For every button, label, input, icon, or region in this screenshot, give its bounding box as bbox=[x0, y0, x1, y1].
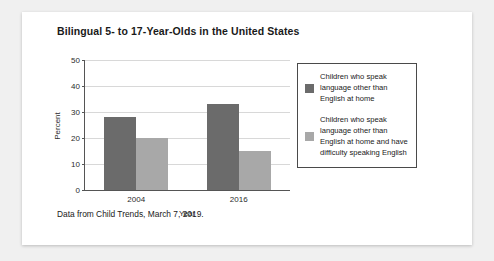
chart-screenshot: Bilingual 5- to 17-Year-Olds in the Unit… bbox=[0, 0, 494, 261]
y-tick-label: 0 bbox=[76, 186, 80, 195]
y-axis-title: Percent bbox=[53, 112, 62, 140]
chart-card: Bilingual 5- to 17-Year-Olds in the Unit… bbox=[22, 12, 472, 245]
chart-title: Bilingual 5- to 17-Year-Olds in the Unit… bbox=[57, 25, 299, 37]
legend-swatch-icon bbox=[305, 132, 314, 141]
y-tick-label: 20 bbox=[71, 134, 80, 143]
y-tick-mark bbox=[82, 60, 85, 61]
bar bbox=[207, 104, 239, 190]
gridline bbox=[85, 86, 290, 87]
legend-swatch-icon bbox=[305, 84, 314, 93]
y-tick-mark bbox=[82, 138, 85, 139]
legend-label: Children who speak language other than E… bbox=[320, 72, 409, 104]
legend-label: Children who speak language other than E… bbox=[320, 115, 409, 158]
bar bbox=[239, 151, 271, 190]
y-tick-label: 30 bbox=[71, 108, 80, 117]
x-tick-label: 2016 bbox=[230, 195, 248, 204]
legend-item[interactable]: Children who speak language other than E… bbox=[305, 115, 409, 158]
bar bbox=[104, 117, 136, 190]
chart-legend: Children who speak language other than E… bbox=[297, 63, 417, 168]
y-tick-label: 50 bbox=[71, 56, 80, 65]
y-tick-mark bbox=[82, 112, 85, 113]
y-tick-label: 40 bbox=[71, 82, 80, 91]
bar bbox=[136, 138, 168, 190]
y-tick-mark bbox=[82, 164, 85, 165]
source-caption: Data from Child Trends, March 7, 2019. bbox=[57, 209, 204, 219]
plot-area: 0102030405020042016 bbox=[84, 60, 290, 191]
x-tick-label: 2004 bbox=[127, 195, 145, 204]
y-tick-mark bbox=[82, 190, 85, 191]
gridline bbox=[85, 112, 290, 113]
y-tick-label: 10 bbox=[71, 160, 80, 169]
y-tick-mark bbox=[82, 86, 85, 87]
legend-item[interactable]: Children who speak language other than E… bbox=[305, 72, 409, 104]
gridline bbox=[85, 60, 290, 61]
plot-wrapper: Percent 0102030405020042016 Year bbox=[84, 60, 290, 191]
